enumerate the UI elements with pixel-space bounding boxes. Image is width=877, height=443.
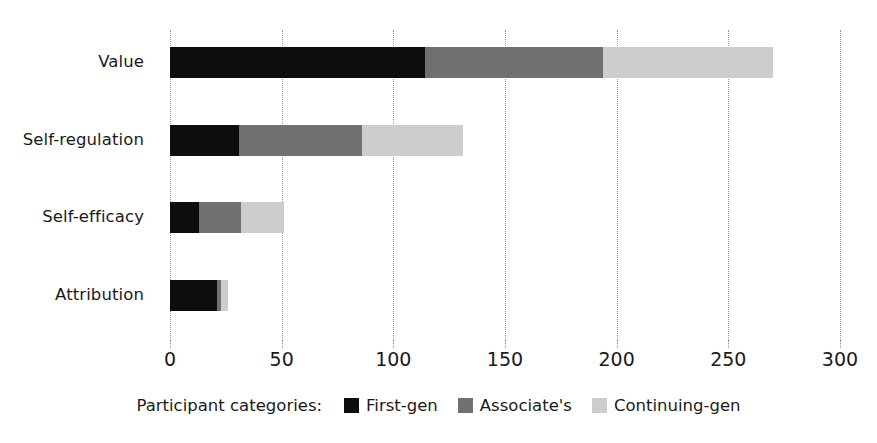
tickmark-150 <box>505 340 506 348</box>
x-axis-tick-label-200: 200 <box>599 348 635 370</box>
legend-items: First-genAssociate'sContinuing-gen <box>344 396 740 415</box>
bar-segment <box>170 125 239 156</box>
bar-row <box>170 280 228 311</box>
tickmark-50 <box>282 340 283 348</box>
x-axis-tick-label-250: 250 <box>710 348 746 370</box>
bar-segment <box>603 47 773 78</box>
legend-item-first-gen[interactable]: First-gen <box>344 396 438 415</box>
legend: Participant categories: First-genAssocia… <box>0 396 877 415</box>
x-axis-tickmarks <box>170 340 840 348</box>
legend-swatch-icon <box>458 398 473 413</box>
y-axis-label-self-regulation: Self-regulation <box>0 130 158 149</box>
x-axis-tick-label-0: 0 <box>164 348 176 370</box>
bar-row <box>170 125 463 156</box>
bar-segment <box>199 202 241 233</box>
bar-row <box>170 202 284 233</box>
x-axis-tick-labels: 050100150200250300 <box>170 348 840 376</box>
tickmark-100 <box>393 340 394 348</box>
bar-segment <box>241 202 283 233</box>
tickmark-300 <box>840 340 841 348</box>
stacked-bar-chart: ValueSelf-regulationSelf-efficacyAttribu… <box>0 0 877 443</box>
legend-item-continuing-gen[interactable]: Continuing-gen <box>592 396 741 415</box>
bar-segment <box>170 202 199 233</box>
bar-segment <box>239 125 362 156</box>
y-axis-category-labels: ValueSelf-regulationSelf-efficacyAttribu… <box>0 30 158 340</box>
y-axis-label-self-efficacy: Self-efficacy <box>0 207 158 226</box>
x-axis-tick-label-300: 300 <box>822 348 858 370</box>
x-axis-tick-label-50: 50 <box>270 348 294 370</box>
tickmark-250 <box>728 340 729 348</box>
bar-segment <box>221 280 228 311</box>
legend-title: Participant categories: <box>136 396 322 415</box>
x-axis-tick-label-150: 150 <box>487 348 523 370</box>
tickmark-0 <box>170 340 171 348</box>
legend-label: Associate's <box>480 396 572 415</box>
x-axis-tick-label-100: 100 <box>375 348 411 370</box>
bar-segment <box>170 280 217 311</box>
bar-segment <box>425 47 604 78</box>
y-axis-label-attribution: Attribution <box>0 285 158 304</box>
plot-area <box>170 30 840 340</box>
legend-label: First-gen <box>366 396 438 415</box>
bar-row <box>170 47 773 78</box>
legend-swatch-icon <box>592 398 607 413</box>
legend-label: Continuing-gen <box>614 396 741 415</box>
y-axis-label-value: Value <box>0 52 158 71</box>
bar-segment <box>362 125 463 156</box>
gridline-300 <box>840 30 841 340</box>
legend-swatch-icon <box>344 398 359 413</box>
tickmark-200 <box>617 340 618 348</box>
bar-segment <box>170 47 425 78</box>
legend-item-associate-s[interactable]: Associate's <box>458 396 572 415</box>
